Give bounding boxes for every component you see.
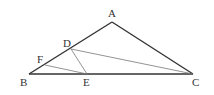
triangle-diagram: ABCDEF <box>0 0 214 95</box>
point-label-b: B <box>20 76 27 88</box>
point-label-c: C <box>192 76 199 88</box>
segment-ac <box>112 22 193 74</box>
segment-fe <box>45 65 87 74</box>
point-label-d: D <box>63 37 71 49</box>
point-label-e: E <box>83 76 90 88</box>
segment-de <box>71 49 87 74</box>
point-label-f: F <box>37 53 43 65</box>
point-label-a: A <box>108 7 116 19</box>
